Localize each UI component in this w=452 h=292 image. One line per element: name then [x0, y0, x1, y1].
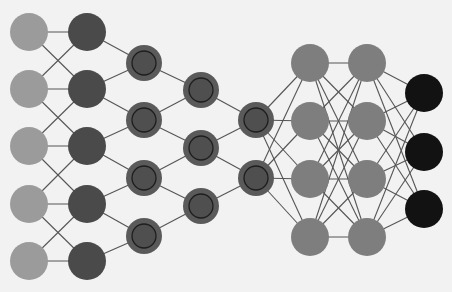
- hidden-neuron: [68, 185, 106, 223]
- fully-connected-neuron: [348, 102, 386, 140]
- kernel-ring-icon: [244, 166, 268, 190]
- network-canvas: [0, 0, 452, 292]
- hidden-neuron: [68, 127, 106, 165]
- input-neuron: [10, 127, 48, 165]
- fully-connected-neuron: [348, 44, 386, 82]
- layer-conv3: [238, 102, 274, 196]
- hidden-neuron: [68, 13, 106, 51]
- layer-hidden1: [68, 13, 106, 280]
- kernel-ring-icon: [132, 51, 156, 75]
- layer-input: [10, 13, 48, 280]
- fully-connected-neuron: [291, 102, 329, 140]
- kernel-ring-icon: [189, 194, 213, 218]
- kernel-ring-icon: [132, 108, 156, 132]
- input-neuron: [10, 242, 48, 280]
- kernel-ring-icon: [244, 108, 268, 132]
- hidden-neuron: [68, 242, 106, 280]
- layer-fc2: [348, 44, 386, 256]
- hidden-neuron: [68, 70, 106, 108]
- input-neuron: [10, 13, 48, 51]
- kernel-ring-icon: [189, 78, 213, 102]
- kernel-ring-icon: [132, 166, 156, 190]
- fully-connected-neuron: [291, 218, 329, 256]
- input-neuron: [10, 185, 48, 223]
- layer-output: [405, 74, 443, 228]
- fully-connected-neuron: [348, 160, 386, 198]
- output-neuron: [405, 190, 443, 228]
- kernel-ring-icon: [132, 224, 156, 248]
- input-neuron: [10, 70, 48, 108]
- layer-fc1: [291, 44, 329, 256]
- neurons: [10, 13, 443, 280]
- layer-conv1: [126, 45, 162, 254]
- neural-network-diagram: [0, 0, 452, 292]
- fully-connected-neuron: [291, 160, 329, 198]
- fully-connected-neuron: [348, 218, 386, 256]
- kernel-ring-icon: [189, 136, 213, 160]
- output-neuron: [405, 74, 443, 112]
- output-neuron: [405, 133, 443, 171]
- layer-conv2: [183, 72, 219, 224]
- fully-connected-neuron: [291, 44, 329, 82]
